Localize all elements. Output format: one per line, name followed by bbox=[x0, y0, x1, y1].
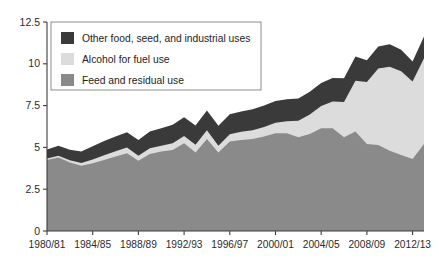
y-tick-label-4: 10 bbox=[28, 57, 40, 69]
chart-container: 02.557.51012.5 1980/811984/851988/891992… bbox=[0, 0, 439, 259]
x-tick-label-1: 1984/85 bbox=[74, 239, 111, 250]
x-tick-label-7: 2008/09 bbox=[348, 239, 385, 250]
x-tick-label-6: 2004/05 bbox=[303, 239, 340, 250]
legend-swatch-2 bbox=[61, 74, 74, 86]
area-chart: 02.557.51012.5 1980/811984/851988/891992… bbox=[0, 0, 439, 259]
x-tick-label-5: 2000/01 bbox=[257, 239, 294, 250]
y-tick-label-5: 12.5 bbox=[20, 16, 41, 28]
y-axis-tick-labels: 02.557.51012.5 bbox=[20, 16, 41, 237]
chart-legend: Other food, seed, and industrial usesAlc… bbox=[51, 22, 261, 90]
x-axis-tick-labels: 1980/811984/851988/891992/931996/972000/… bbox=[29, 239, 432, 250]
y-tick-label-2: 5 bbox=[34, 141, 40, 153]
x-tick-label-2: 1988/89 bbox=[120, 239, 157, 250]
x-tick-label-0: 1980/81 bbox=[29, 239, 66, 250]
y-tick-label-0: 0 bbox=[34, 225, 40, 237]
y-tick-label-1: 2.5 bbox=[25, 183, 40, 195]
legend-label-0: Other food, seed, and industrial uses bbox=[82, 33, 250, 44]
x-tick-label-4: 1996/97 bbox=[211, 239, 248, 250]
x-tick-label-3: 1992/93 bbox=[166, 239, 203, 250]
y-tick-label-3: 7.5 bbox=[25, 99, 40, 111]
legend-swatch-1 bbox=[61, 53, 74, 65]
x-tick-label-8: 2012/13 bbox=[394, 239, 431, 250]
legend-label-2: Feed and residual use bbox=[82, 75, 184, 86]
legend-swatch-0 bbox=[61, 32, 74, 44]
legend-label-1: Alcohol for fuel use bbox=[82, 54, 170, 65]
